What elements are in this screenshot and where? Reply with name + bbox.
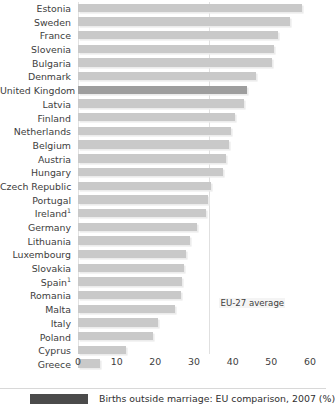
legend-caption: Births outside marriage: EU comparison, … <box>99 393 335 404</box>
footnote-marker: 1 <box>67 207 71 214</box>
category-label: Lithuania <box>0 235 74 249</box>
axis-tick-40: 40 <box>227 356 239 367</box>
axis-tick-60: 60 <box>304 356 316 367</box>
bar <box>78 346 126 354</box>
category-label: Portugal <box>0 194 74 208</box>
bar-row <box>78 98 310 112</box>
bar <box>78 154 226 162</box>
axis-tick-30: 30 <box>188 356 200 367</box>
bar <box>78 250 186 258</box>
bar <box>78 195 208 203</box>
category-label: Spain1 <box>0 276 74 290</box>
category-label: Luxembourg <box>0 248 74 262</box>
bar <box>78 277 182 285</box>
bar <box>78 99 244 107</box>
bar-row <box>78 153 310 167</box>
bar <box>78 209 206 217</box>
category-label: Latvia <box>0 98 74 112</box>
gridline-60 <box>310 2 311 354</box>
bar-row <box>78 125 310 139</box>
category-label: Netherlands <box>0 125 74 139</box>
bar-row <box>78 166 310 180</box>
chart-legend: Births outside marriage: EU comparison, … <box>0 388 326 410</box>
bar-row <box>78 84 310 98</box>
legend-color-swatch <box>30 394 88 404</box>
bar <box>78 31 278 39</box>
category-label: Sweden <box>0 16 74 30</box>
bar <box>78 291 181 299</box>
category-label: Estonia <box>0 2 74 16</box>
category-label: Czech Republic <box>0 180 74 194</box>
axis-tick-50: 50 <box>265 356 277 367</box>
category-label: Poland <box>0 331 74 345</box>
category-label: Finland <box>0 112 74 126</box>
bar <box>78 140 229 148</box>
category-label: Ireland1 <box>0 207 74 221</box>
category-label: Romania <box>0 289 74 303</box>
bar-row <box>78 221 310 235</box>
axis-tick-0: 0 <box>75 356 81 367</box>
category-label: Slovenia <box>0 43 74 57</box>
bar <box>78 127 231 135</box>
bar-row <box>78 180 310 194</box>
bar-row <box>78 276 310 290</box>
category-label: Italy <box>0 317 74 331</box>
category-label: Denmark <box>0 70 74 84</box>
axis-tick-10: 10 <box>111 356 123 367</box>
value-axis: 0102030405060 <box>78 356 310 370</box>
category-label: Cyprus <box>0 344 74 358</box>
bar-row <box>78 262 310 276</box>
bar <box>78 223 197 231</box>
bar <box>78 86 247 94</box>
bar <box>78 4 302 12</box>
bar-row <box>78 331 310 345</box>
bar-row <box>78 317 310 331</box>
bar-row <box>78 43 310 57</box>
bar <box>78 72 256 80</box>
category-label: Malta <box>0 303 74 317</box>
axis-tick-20: 20 <box>149 356 161 367</box>
category-label: United Kingdom <box>0 84 74 98</box>
bar <box>78 168 223 176</box>
bar-row <box>78 70 310 84</box>
category-axis-labels: EstoniaSwedenFranceSloveniaBulgariaDenma… <box>0 2 74 354</box>
eu27-average-annotation: EU-27 average <box>219 298 285 308</box>
legend-divider <box>0 388 326 389</box>
bar <box>78 58 272 66</box>
bar-row <box>78 112 310 126</box>
category-label: Bulgaria <box>0 57 74 71</box>
bar-row <box>78 29 310 43</box>
footnote-marker: 1 <box>67 276 71 283</box>
bar-row <box>78 194 310 208</box>
bar <box>78 182 211 190</box>
bar-row <box>78 57 310 71</box>
category-label: Slovakia <box>0 262 74 276</box>
bar <box>78 305 175 313</box>
bar <box>78 45 274 53</box>
bar <box>78 318 158 326</box>
bar-row <box>78 2 310 16</box>
category-label: Belgium <box>0 139 74 153</box>
bar <box>78 236 190 244</box>
bar-row <box>78 16 310 30</box>
category-label: Hungary <box>0 166 74 180</box>
category-label: France <box>0 29 74 43</box>
bar-row <box>78 235 310 249</box>
category-label: Germany <box>0 221 74 235</box>
bar <box>78 113 235 121</box>
bar-row <box>78 139 310 153</box>
bar <box>78 264 184 272</box>
bar-row <box>78 207 310 221</box>
bar <box>78 17 290 25</box>
legend-entry: Births outside marriage: EU comparison, … <box>30 393 335 404</box>
category-label: Austria <box>0 153 74 167</box>
category-label: Greece <box>0 358 74 372</box>
bar <box>78 332 153 340</box>
bar-row <box>78 248 310 262</box>
